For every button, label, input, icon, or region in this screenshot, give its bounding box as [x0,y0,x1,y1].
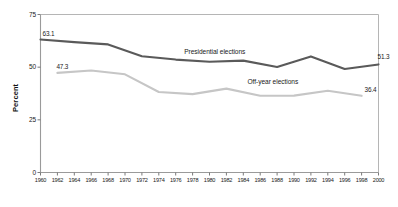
voter-turnout-chart: Percent 0255075 196019621964196619681970… [0,0,398,207]
axis-tick-marks [38,15,379,176]
plot-frame [41,15,379,173]
endpoint-label-presidential-end: 51.3 [378,53,390,60]
x-tick-label: 2000 [368,177,390,183]
endpoint-label-off-year-end: 36.4 [365,86,377,93]
endpoint-label-off-year-start: 47.3 [56,63,68,70]
y-tick-label: 75 [18,11,36,18]
endpoint-label-presidential-start: 63.1 [43,30,55,37]
y-tick-label: 50 [18,63,36,70]
series-label-off-year: Off-year elections [248,78,299,85]
series-label-presidential: Presidential elections [184,48,245,55]
y-tick-label: 0 [18,169,36,176]
y-tick-label: 25 [18,116,36,123]
